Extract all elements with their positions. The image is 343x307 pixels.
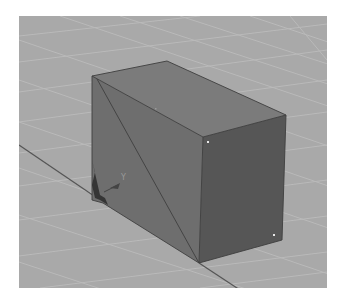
vertex-marker[interactable] <box>155 108 157 110</box>
vertex-marker[interactable] <box>273 234 275 236</box>
box-front-face[interactable] <box>199 115 286 263</box>
box-object[interactable] <box>92 61 286 263</box>
scene-canvas[interactable]: Y <box>19 16 327 288</box>
vertex-marker[interactable] <box>207 141 209 143</box>
gizmo-axis-label-y: Y <box>120 173 126 182</box>
3d-viewport[interactable]: Y <box>19 16 327 288</box>
